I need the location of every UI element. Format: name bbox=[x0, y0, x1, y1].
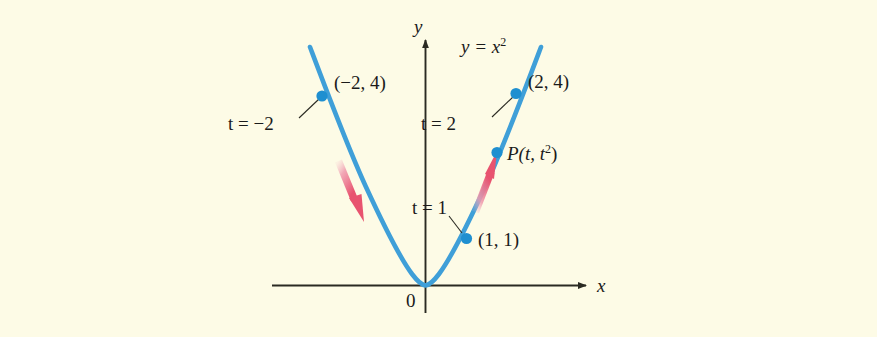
svg-text:y = x2: y = x2 bbox=[459, 35, 506, 57]
y-axis-label: y bbox=[412, 16, 423, 37]
point-P-marker bbox=[491, 147, 502, 158]
point-1-1-marker bbox=[461, 233, 472, 244]
point-1-1-coord-label: (1, 1) bbox=[478, 229, 519, 251]
x-axis-label: x bbox=[596, 275, 606, 296]
param-label-t-2: t = 2 bbox=[421, 113, 456, 134]
param-label-t-neg2: t = −2 bbox=[228, 113, 274, 134]
param-label-t-1: t = 1 bbox=[412, 197, 447, 218]
origin-label: 0 bbox=[406, 290, 416, 311]
point-P-label-base: P(t, t bbox=[506, 143, 546, 165]
point-2-4-marker bbox=[510, 88, 521, 99]
point-neg2-4-marker bbox=[316, 90, 327, 101]
curve-equation-base: y = x bbox=[459, 36, 501, 57]
curve-equation-label: y = x2 bbox=[459, 35, 506, 57]
point-neg2-4-coord-label: (−2, 4) bbox=[334, 72, 386, 94]
point-P-label-tail: ) bbox=[551, 143, 557, 165]
point-2-4-coord-label: (2, 4) bbox=[528, 71, 569, 93]
curve-equation-exponent: 2 bbox=[500, 35, 506, 49]
figure-svg: x y 0 y = x2 (−2, 4) (2, 4) (1, 1) P(t, … bbox=[0, 0, 877, 337]
parametric-parabola-figure: x y 0 y = x2 (−2, 4) (2, 4) (1, 1) P(t, … bbox=[0, 0, 877, 337]
